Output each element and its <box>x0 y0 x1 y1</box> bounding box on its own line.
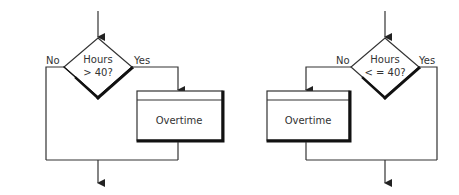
yes-label: Yes <box>418 55 435 66</box>
flowchart-right: Hours < = 40? No Yes Overtime <box>267 11 437 183</box>
no-branch-line <box>46 67 64 160</box>
decision-text-line2: > 40? <box>83 67 113 78</box>
decision-text-line1: Hours <box>370 54 399 65</box>
decision-diamond: Hours > 40? <box>64 38 132 98</box>
process-box: Overtime <box>267 91 350 141</box>
process-label: Overtime <box>285 115 332 126</box>
yes-branch-line <box>132 67 178 90</box>
no-label: No <box>336 55 350 66</box>
decision-diamond: Hours < = 40? <box>351 38 419 98</box>
no-branch-line <box>306 67 351 90</box>
no-label: No <box>46 55 60 66</box>
process-label: Overtime <box>156 115 203 126</box>
process-box: Overtime <box>137 91 223 141</box>
yes-branch-line <box>419 67 437 160</box>
yes-label: Yes <box>133 55 150 66</box>
flowchart-canvas: Hours > 40? No Yes Overtime Hours <box>0 0 459 195</box>
decision-text-line1: Hours <box>83 54 112 65</box>
decision-text-line2: < = 40? <box>364 67 405 78</box>
flowchart-left: Hours > 40? No Yes Overtime <box>46 11 223 183</box>
